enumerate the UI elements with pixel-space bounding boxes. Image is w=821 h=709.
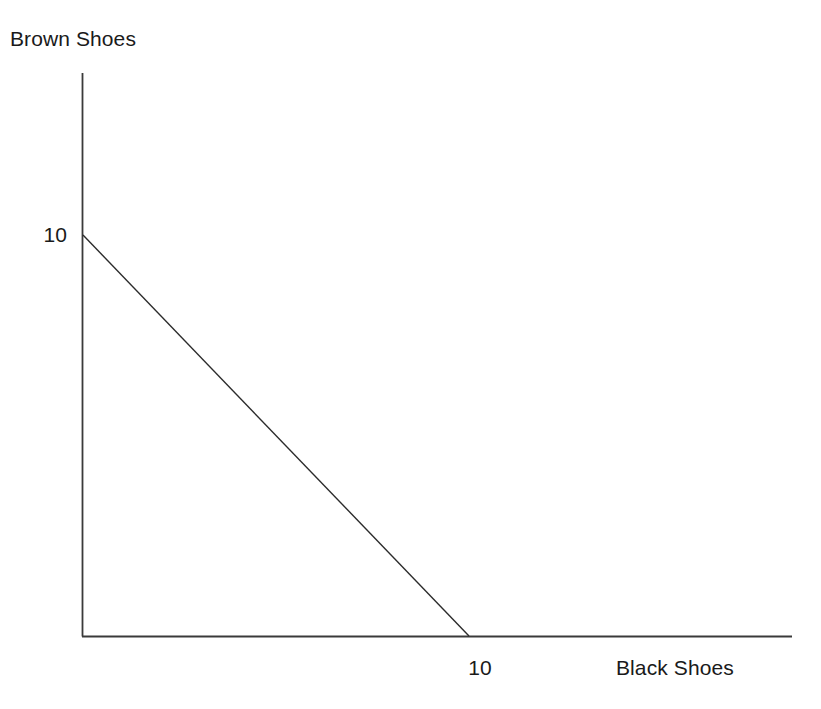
chart-canvas: Brown Shoes 10 10 Black Shoes [0, 0, 821, 709]
y-axis-title: Brown Shoes [10, 28, 136, 49]
chart-plot-area [0, 0, 821, 709]
x-axis-tick-label-10: 10 [440, 657, 520, 678]
y-axis-tick-label-10: 10 [0, 224, 67, 245]
ppf-frontier-line [83, 235, 469, 636]
x-axis-title: Black Shoes [616, 657, 734, 678]
